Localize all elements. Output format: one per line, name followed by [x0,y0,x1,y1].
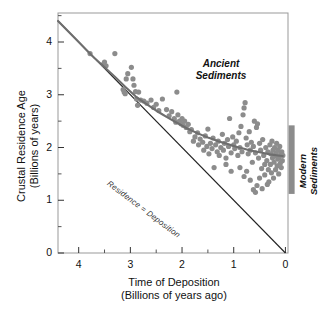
data-point [256,155,261,160]
data-point [174,90,179,95]
data-point [254,183,259,188]
data-point [251,144,256,149]
data-point [205,126,210,131]
data-point [247,129,252,134]
x-tick-label: 3 [123,258,137,270]
data-point [239,149,244,154]
x-axis-title-sub: (Billions of years ago) [58,289,290,302]
data-point [160,96,165,101]
data-point [262,162,267,167]
y-tick-label: 4 [38,35,52,47]
modern-sediments-line1: Modern [297,125,308,217]
data-point [255,121,260,126]
modern-sediments-annotation-wrap: Modern Sediments [268,132,320,212]
data-point [211,165,216,170]
data-point [237,165,242,170]
x-tick-label: 2 [175,258,189,270]
data-point [175,112,180,117]
data-point [234,139,239,144]
data-point [262,172,267,177]
data-point [236,130,241,135]
data-point [248,178,253,183]
plot-frame [58,13,288,253]
x-tick-label: 4 [72,258,86,270]
data-point [130,76,135,81]
data-point [241,174,246,179]
data-point [131,83,136,88]
data-point [240,112,245,117]
data-point [229,150,234,155]
data-point [123,91,128,96]
data-point [230,134,235,139]
data-point [124,76,129,81]
y-tick-label: 1 [38,193,52,205]
y-axis-title-main: Crustal Residence Age [15,66,28,226]
data-point [259,166,264,171]
ancient-sediments-line1: Ancient [176,58,266,70]
x-axis-title-main: Time of Deposition [58,276,290,289]
y-tick-label: 2 [38,141,52,153]
data-point [250,160,255,165]
data-point [148,97,153,102]
ancient-sediments-line2: Sediments [176,70,266,82]
data-point [244,169,249,174]
y-tick-label: 3 [38,88,52,100]
data-point [164,107,169,112]
data-point [135,103,140,108]
x-tick-label: 0 [278,258,292,270]
modern-sediments-line2: Sediments [308,125,319,217]
data-point [257,175,262,180]
data-point [129,65,134,70]
ancient-sediments-annotation: Ancient Sediments [176,58,266,82]
data-point [227,116,232,121]
x-axis-title: Time of Deposition (Billions of years ag… [58,276,290,302]
data-point [235,153,240,158]
data-point [208,141,213,146]
data-point [260,186,265,191]
data-point [169,109,174,114]
modern-sediments-annotation: Modern Sediments [297,125,319,217]
data-point [241,105,246,110]
data-point [200,140,205,145]
data-point [186,122,191,127]
data-point [221,148,226,153]
data-point [154,102,159,107]
data-point [206,151,211,156]
data-point [223,155,228,160]
data-point [112,51,117,56]
data-point [125,71,130,76]
data-point [223,162,228,167]
data-point [229,169,234,174]
chart-figure: Crustal Residence Age (Billions of years… [0,0,320,312]
data-point [238,124,243,129]
data-point [244,135,249,140]
data-point [243,100,248,105]
data-point [260,137,265,142]
plot-border [58,13,288,253]
y-tick-label: 0 [38,246,52,258]
data-point [225,137,230,142]
x-tick-label: 1 [227,258,241,270]
data-point [220,132,225,137]
data-point [217,153,222,158]
data-point [253,190,258,195]
data-point [136,90,141,95]
